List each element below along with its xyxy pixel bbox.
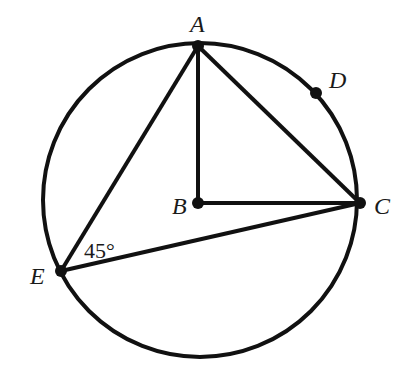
- angle-label-E: 45°: [84, 238, 115, 263]
- geometry-diagram: A B C D E 45°: [0, 0, 412, 377]
- label-C: C: [374, 193, 391, 219]
- label-B: B: [172, 193, 187, 219]
- label-E: E: [29, 263, 45, 289]
- point-E: [55, 265, 67, 277]
- segment-AE: [61, 46, 198, 271]
- point-C: [354, 197, 366, 209]
- label-A: A: [188, 11, 205, 37]
- point-D: [310, 87, 322, 99]
- point-A: [192, 40, 204, 52]
- label-D: D: [328, 67, 346, 93]
- point-B: [192, 197, 204, 209]
